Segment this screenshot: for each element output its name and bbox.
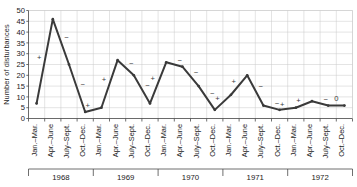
y-tick-label: 25 xyxy=(17,60,25,69)
x-year-label: 1972 xyxy=(311,173,328,182)
change-sign-label: + xyxy=(215,94,220,103)
x-quarter-label: July–Sept. xyxy=(256,124,265,159)
data-point xyxy=(343,104,346,107)
x-quarter-label: Oct.–Dec. xyxy=(337,124,346,157)
x-quarter-label: Apr.–June xyxy=(175,124,184,157)
x-quarter-label: July–Sept. xyxy=(127,124,136,159)
x-year-label: 1970 xyxy=(182,173,200,182)
change-sign-label: − xyxy=(323,95,328,104)
y-tick-label: 40 xyxy=(17,28,25,37)
change-sign-label: − xyxy=(80,80,85,89)
data-point xyxy=(230,93,233,96)
data-point xyxy=(294,106,297,109)
x-quarter-label: Oct.–Dec. xyxy=(208,124,217,157)
change-sign-label: + xyxy=(296,96,301,105)
y-tick-label: 45 xyxy=(17,17,25,26)
change-sign-label: + xyxy=(280,100,285,109)
data-point xyxy=(165,61,168,64)
data-point xyxy=(278,109,281,112)
x-quarter-label: Apr.–June xyxy=(305,124,314,157)
change-sign-label: − xyxy=(259,82,264,91)
data-point xyxy=(327,104,330,107)
x-quarter-label: Oct.–Dec. xyxy=(273,124,282,157)
data-point xyxy=(68,63,71,66)
change-sign-label: − xyxy=(64,33,69,42)
x-quarter-label: July–Sept. xyxy=(321,124,330,159)
x-axis-year-labels: 19681969197019711972 xyxy=(52,173,329,182)
x-quarter-label: Oct.–Dec. xyxy=(143,124,152,157)
data-point xyxy=(181,65,184,68)
data-point xyxy=(311,100,314,103)
x-quarter-label: Jan.–Mar. xyxy=(159,124,168,156)
x-quarter-label: Apr.–June xyxy=(46,124,55,157)
change-sign-label: − xyxy=(129,59,134,68)
x-quarter-label: July–Sept. xyxy=(192,124,201,159)
data-point xyxy=(197,85,200,88)
x-axis-ticks xyxy=(29,119,353,122)
y-tick-label: 50 xyxy=(17,6,25,15)
change-sign-label: − xyxy=(178,56,183,65)
x-axis-quarter-labels: Jan.–Mar.Apr.–JuneJuly–Sept.Oct.–Dec.Jan… xyxy=(30,124,347,159)
change-sign-label: + xyxy=(37,53,42,62)
data-point xyxy=(35,102,38,105)
y-tick-label: 15 xyxy=(17,82,25,91)
data-point xyxy=(132,74,135,77)
gridlines xyxy=(29,11,353,119)
change-sign-label: + xyxy=(86,101,91,110)
change-sign-label: 0 xyxy=(334,94,338,103)
x-quarter-label: Apr.–June xyxy=(240,124,249,157)
data-point xyxy=(84,111,87,114)
change-sign-label: + xyxy=(102,75,107,84)
chart-figure: Number of disturbances 05101520253035404… xyxy=(0,0,357,187)
y-tick-label: 35 xyxy=(17,39,25,48)
data-point xyxy=(246,74,249,77)
x-quarter-label: July–Sept. xyxy=(62,124,71,159)
data-point xyxy=(213,109,216,112)
change-sign-label: + xyxy=(150,74,155,83)
y-axis-ticks: 05101520253035404550 xyxy=(17,6,25,123)
x-quarter-label: Jan.–Mar. xyxy=(224,124,233,156)
data-point xyxy=(51,18,54,21)
x-quarter-label: Jan.–Mar. xyxy=(289,124,298,156)
y-tick-label: 5 xyxy=(21,103,25,112)
y-tick-label: 30 xyxy=(17,49,25,58)
y-tick-label: 10 xyxy=(17,93,25,102)
data-point xyxy=(100,106,103,109)
x-quarter-label: Jan.–Mar. xyxy=(94,124,103,156)
y-tick-label: 20 xyxy=(17,71,25,80)
change-sign-label: − xyxy=(194,68,199,77)
x-year-label: 1969 xyxy=(117,173,134,182)
data-point xyxy=(116,59,119,62)
x-quarter-label: Apr.–June xyxy=(111,124,120,157)
data-point xyxy=(149,102,152,105)
data-point xyxy=(262,104,265,107)
x-year-label: 1968 xyxy=(52,173,69,182)
y-tick-label: 0 xyxy=(21,114,25,123)
x-quarter-label: Oct.–Dec. xyxy=(78,124,87,157)
x-year-label: 1971 xyxy=(247,173,264,182)
chart-canvas: 05101520253035404550 +−−++−−+−−−++−−++−0… xyxy=(0,0,357,187)
change-sign-label: + xyxy=(231,77,236,86)
x-quarter-label: Jan.–Mar. xyxy=(30,124,39,156)
